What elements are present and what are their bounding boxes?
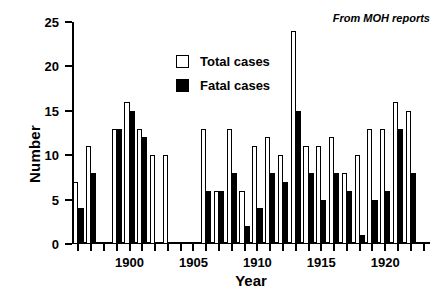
bar-fatal [296, 111, 301, 244]
x-tick [359, 244, 361, 251]
y-tick-label: 20 [45, 60, 59, 73]
x-tick-label: 1915 [307, 256, 336, 269]
x-tick [269, 244, 271, 251]
bar-fatal [321, 200, 326, 244]
y-tick-label: 25 [45, 16, 59, 29]
x-tick [167, 244, 169, 251]
bar-fatal [142, 137, 147, 244]
y-tick-label: 5 [52, 193, 59, 206]
bar-fatal [372, 200, 377, 244]
y-tick [65, 110, 72, 112]
x-tick [256, 244, 258, 251]
x-tick [371, 244, 373, 251]
x-tick [397, 244, 399, 251]
legend-label-fatal: Fatal cases [200, 79, 270, 92]
bar-fatal [78, 208, 83, 244]
bar-fatal [117, 129, 122, 244]
y-tick-label: 0 [52, 238, 59, 251]
x-tick [180, 244, 182, 251]
x-tick [346, 244, 348, 251]
legend-swatch-fatal-icon [176, 79, 189, 92]
bar-fatal [283, 182, 288, 244]
bar-total [355, 155, 360, 244]
legend-item-fatal: Fatal cases [176, 78, 270, 93]
x-tick [282, 244, 284, 251]
y-tick-label: 10 [45, 149, 59, 162]
legend-swatch-total-icon [176, 55, 189, 68]
y-tick [65, 21, 72, 23]
y-tick [65, 65, 72, 67]
y-tick-label: 15 [45, 104, 59, 117]
x-tick [141, 244, 143, 251]
x-tick [384, 244, 386, 251]
x-tick [218, 244, 220, 251]
x-tick [192, 244, 194, 251]
bar-fatal [334, 173, 339, 244]
bar-fatal [245, 226, 250, 244]
x-tick [154, 244, 156, 251]
y-tick [65, 243, 72, 245]
bar-fatal [257, 208, 262, 244]
y-axis-title: Number [26, 125, 43, 183]
bar-fatal [309, 173, 314, 244]
x-tick-label: 1910 [243, 256, 272, 269]
x-tick [205, 244, 207, 251]
bar-fatal [130, 111, 135, 244]
x-tick [231, 244, 233, 251]
x-tick-label: 1920 [371, 256, 400, 269]
bar-fatal [385, 191, 390, 244]
bar-fatal [347, 191, 352, 244]
x-tick [103, 244, 105, 251]
x-tick [116, 244, 118, 251]
x-tick [77, 244, 79, 251]
chart-figure: From MOH reports Number Year 0510152025 … [0, 0, 438, 307]
legend-label-total: Total cases [200, 55, 270, 68]
x-tick [90, 244, 92, 251]
y-tick [65, 199, 72, 201]
x-tick [320, 244, 322, 251]
bar-fatal [232, 173, 237, 244]
plot-area: 0510152025 19001905191019151920 Total ca… [72, 22, 430, 244]
x-tick-label: 1905 [179, 256, 208, 269]
bar-fatal [206, 191, 211, 244]
x-tick-label: 1900 [115, 256, 144, 269]
bar-total [150, 155, 155, 244]
bar-fatal [360, 235, 365, 244]
x-tick [333, 244, 335, 251]
legend-item-total: Total cases [176, 54, 270, 69]
bar-fatal [91, 173, 96, 244]
x-tick [129, 244, 131, 251]
x-tick [244, 244, 246, 251]
x-tick [410, 244, 412, 251]
bar-fatal [411, 173, 416, 244]
bar-fatal [398, 129, 403, 244]
x-tick [308, 244, 310, 251]
x-axis-title: Year [72, 272, 430, 289]
x-tick [423, 244, 425, 251]
bar-fatal [219, 191, 224, 244]
bar-total [163, 155, 168, 244]
x-tick [295, 244, 297, 251]
bar-fatal [270, 173, 275, 244]
chart-legend: Total cases Fatal cases [176, 54, 270, 102]
y-tick [65, 154, 72, 156]
